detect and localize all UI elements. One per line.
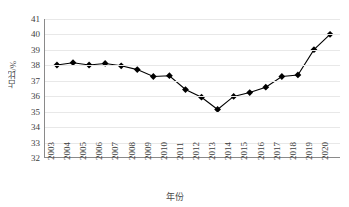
line-chart: 占比/% 41403938373635343332 20032004200520…: [0, 0, 349, 207]
x-axis-tick-label: 2014: [224, 142, 233, 160]
x-axis-title-label: 年份: [166, 192, 184, 202]
x-axis-tick-label: 2003: [47, 142, 56, 160]
y-axis-title: 占比/%: [6, 0, 20, 150]
x-axis-tick-label: 2005: [79, 142, 88, 160]
x-axis-tick-labels: 2003200420052006200720082009201020112012…: [44, 160, 340, 190]
gridline: [45, 112, 340, 113]
y-axis-tick-labels: 41403938373635343332: [20, 12, 40, 160]
y-axis-tick-label: 36: [31, 92, 40, 101]
x-axis-tick-label: 2004: [63, 142, 72, 160]
x-axis-tick-label: 2012: [192, 142, 201, 160]
y-axis-tick-label: 33: [31, 138, 40, 147]
data-point-marker: [295, 72, 302, 79]
series-line: [57, 34, 330, 109]
gridline: [45, 50, 340, 51]
x-axis-tick-label: 2015: [240, 142, 249, 160]
data-series: [45, 19, 340, 157]
data-point-marker: [150, 73, 157, 80]
gridline: [45, 19, 340, 20]
x-axis-tick-label: 2008: [127, 142, 136, 160]
y-axis-tick-label: 34: [31, 123, 40, 132]
data-point-marker: [278, 73, 285, 80]
x-axis-tick-label: 2018: [288, 142, 297, 160]
x-axis-tick-label: 2017: [272, 142, 281, 160]
x-axis-tick-label: 2013: [208, 142, 217, 160]
gridline: [45, 127, 340, 128]
data-point-marker: [134, 66, 141, 73]
x-axis-tick-label: 2006: [95, 142, 104, 160]
x-axis-tick-label: 2020: [321, 142, 330, 160]
x-axis-title: 年份: [0, 190, 349, 203]
x-axis-tick-label: 2007: [111, 142, 120, 160]
gridline: [45, 65, 340, 66]
x-axis-tick-label: 2010: [159, 142, 168, 160]
y-axis-tick-label: 40: [31, 30, 40, 39]
y-axis-title-label: 占比/%: [7, 61, 19, 88]
y-axis-tick-label: 39: [31, 45, 40, 54]
x-axis-tick-label: 2019: [304, 142, 313, 160]
gridline: [45, 81, 340, 82]
plot-area: [44, 19, 340, 158]
x-axis-tick-label: 2009: [143, 142, 152, 160]
gridline: [45, 96, 340, 97]
data-point-marker: [262, 84, 269, 91]
data-point-marker: [246, 89, 253, 96]
y-axis-tick-label: 32: [31, 154, 40, 163]
y-axis-tick-label: 38: [31, 61, 40, 70]
y-axis-tick-label: 41: [31, 15, 40, 24]
gridline: [45, 34, 340, 35]
x-axis-tick-label: 2016: [256, 142, 265, 160]
x-axis-tick-label: 2011: [175, 142, 184, 160]
y-axis-tick-label: 37: [31, 76, 40, 85]
y-axis-tick-label: 35: [31, 107, 40, 116]
